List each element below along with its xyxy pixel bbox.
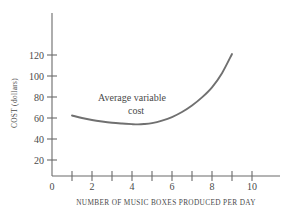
x-tick-label-10: 10: [247, 181, 257, 192]
y-tick-label-120: 120: [29, 50, 44, 61]
y-tick-label-80: 80: [34, 92, 44, 103]
x-axis-tick-labels: 0 2 4 6 8 10: [50, 181, 258, 192]
x-tick-label-8: 8: [210, 181, 215, 192]
annotation-line-2: cost: [128, 105, 144, 116]
annotation-line-1: Average variable: [98, 92, 166, 103]
x-tick-label-4: 4: [130, 181, 135, 192]
y-axis-title: COST (dollars): [10, 78, 19, 128]
x-tick-label-2: 2: [90, 181, 95, 192]
x-tick-label-6: 6: [170, 181, 175, 192]
x-tick-label-0: 0: [50, 181, 55, 192]
y-tick-label-20: 20: [34, 155, 44, 166]
chart-figure: 120 100 80 60 40 20 0 2 4 6 8 10: [0, 0, 292, 216]
y-tick-label-100: 100: [29, 71, 44, 82]
y-tick-label-60: 60: [34, 113, 44, 124]
y-tick-label-40: 40: [34, 134, 44, 145]
x-axis-title: NUMBER OF MUSIC BOXES PRODUCED PER DAY: [76, 198, 256, 207]
average-variable-cost-chart: 120 100 80 60 40 20 0 2 4 6 8 10: [0, 0, 292, 216]
average-variable-cost-curve: [72, 54, 232, 124]
y-axis-tick-labels: 120 100 80 60 40 20: [29, 50, 44, 166]
